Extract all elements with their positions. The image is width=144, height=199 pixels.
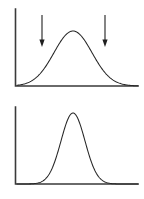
left-marker-arrow: [39, 15, 44, 47]
top-panel: [16, 9, 139, 86]
bottom-panel: [16, 107, 139, 184]
bottom-panel-curve: [17, 113, 138, 184]
right-marker-arrow: [102, 15, 107, 47]
right-marker-arrow-head: [102, 40, 107, 48]
bottom-panel-axes: [16, 107, 139, 184]
left-marker-arrow-head: [39, 40, 44, 48]
distribution-figure: [0, 0, 144, 199]
top-panel-curve: [17, 31, 138, 86]
figure-container: Two stacked line plots on L-shaped axes.…: [0, 0, 144, 199]
top-panel-axes: [16, 9, 139, 86]
